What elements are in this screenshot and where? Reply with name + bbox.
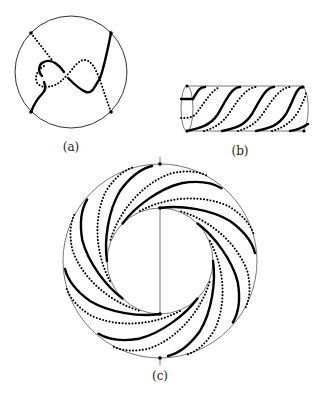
dotted-strand bbox=[31, 33, 52, 60]
marked-point bbox=[109, 31, 113, 35]
marked-point bbox=[109, 110, 113, 114]
panel-a: (a) bbox=[15, 16, 127, 154]
dotted-strand bbox=[36, 60, 111, 112]
marked-point bbox=[29, 31, 33, 35]
marked-point bbox=[158, 162, 162, 166]
solid-arc bbox=[98, 267, 198, 367]
caption-b: (b) bbox=[231, 144, 248, 158]
marked-point bbox=[158, 206, 162, 210]
solid-arc bbox=[122, 156, 222, 256]
marked-point bbox=[302, 129, 305, 132]
dotted-strand bbox=[272, 92, 306, 131]
dotted-strand bbox=[181, 87, 220, 118]
solid-arc bbox=[166, 223, 266, 323]
solid-strand bbox=[39, 61, 64, 76]
panel-b: (b) bbox=[181, 84, 308, 158]
marked-point bbox=[185, 129, 188, 132]
marked-point bbox=[301, 85, 304, 88]
marked-point bbox=[158, 312, 162, 316]
solid-arc bbox=[55, 199, 155, 299]
marked-point bbox=[185, 84, 188, 87]
marked-point bbox=[29, 110, 33, 114]
caption-a: (a) bbox=[63, 140, 80, 154]
cylinder-left-end bbox=[181, 86, 193, 131]
solid-strand bbox=[68, 33, 111, 92]
figure-canvas: (a) (b) bbox=[0, 0, 329, 399]
caption-c: (c) bbox=[152, 369, 168, 383]
panel-c bbox=[49, 150, 272, 373]
marked-point bbox=[158, 356, 162, 360]
solid-strand bbox=[193, 87, 205, 99]
